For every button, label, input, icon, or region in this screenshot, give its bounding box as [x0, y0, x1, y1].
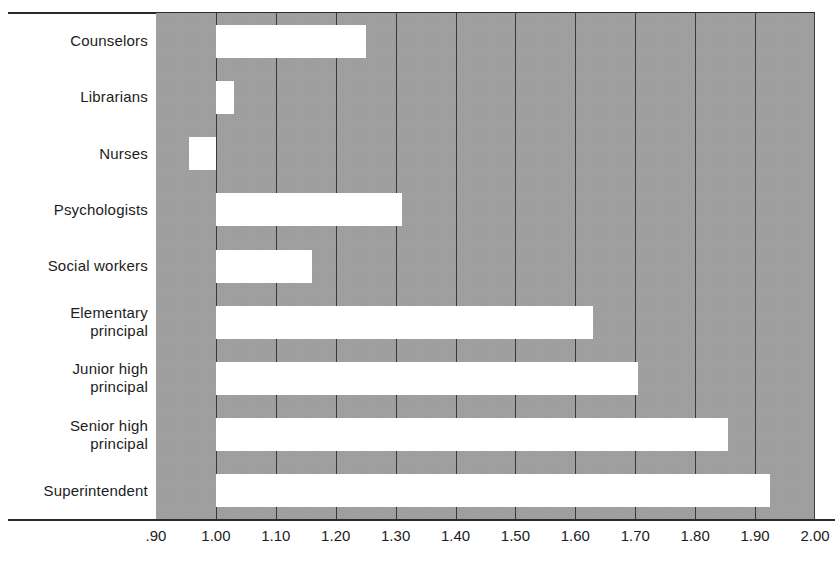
category-label-line1: Counselors: [70, 32, 148, 49]
category-axis-labels: CounselorsLibrariansNursesPsychologistsS…: [0, 13, 148, 519]
bar: [216, 418, 728, 451]
category-label: Elementaryprincipal: [0, 304, 148, 340]
bar: [216, 250, 312, 283]
category-label: Senior highprincipal: [0, 417, 148, 453]
category-label-line1: Psychologists: [54, 201, 148, 218]
bar: [189, 137, 216, 170]
category-label: Librarians: [0, 88, 148, 106]
x-tick-label: 1.40: [441, 527, 470, 544]
plot-area: [156, 13, 815, 519]
x-tick-label: 1.30: [381, 527, 410, 544]
category-label-line1: Social workers: [48, 257, 148, 274]
category-label-line1: Senior high: [70, 417, 148, 434]
x-axis-line: [8, 519, 835, 521]
category-label-line1: Superintendent: [43, 482, 148, 499]
category-label-line1: Junior high: [72, 360, 148, 377]
category-label: Social workers: [0, 257, 148, 275]
category-label: Psychologists: [0, 201, 148, 219]
gridline: [755, 13, 756, 519]
bar: [216, 362, 638, 395]
category-label-line1: Elementary: [70, 304, 148, 321]
category-label-line2: principal: [0, 435, 148, 453]
bar: [216, 25, 366, 58]
x-tick-label: 1.70: [621, 527, 650, 544]
x-tick-label: .90: [146, 527, 167, 544]
category-label-line2: principal: [0, 322, 148, 340]
bar: [216, 81, 234, 114]
x-tick-label: 1.00: [201, 527, 230, 544]
bar: [216, 474, 770, 507]
x-tick-label: 1.20: [321, 527, 350, 544]
category-label-line1: Librarians: [80, 88, 148, 105]
category-label: Counselors: [0, 32, 148, 50]
category-label-line1: Nurses: [99, 145, 148, 162]
bar: [216, 306, 593, 339]
category-label: Nurses: [0, 145, 148, 163]
x-tick-label: 1.90: [740, 527, 769, 544]
x-tick-label: 2.00: [800, 527, 829, 544]
category-label: Superintendent: [0, 482, 148, 500]
x-tick-label: 1.10: [261, 527, 290, 544]
bar-chart-figure: CounselorsLibrariansNursesPsychologistsS…: [0, 0, 837, 570]
category-label: Junior highprincipal: [0, 360, 148, 396]
x-tick-label: 1.60: [561, 527, 590, 544]
x-tick-label: 1.80: [681, 527, 710, 544]
x-tick-label: 1.50: [501, 527, 530, 544]
bar: [216, 193, 402, 226]
category-label-line2: principal: [0, 378, 148, 396]
